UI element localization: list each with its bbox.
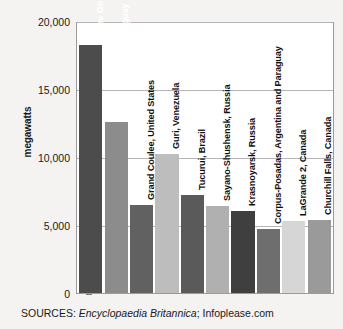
y-tick-label: 5,000	[22, 221, 70, 231]
y-tick-mark	[86, 294, 92, 295]
bar[interactable]	[130, 205, 153, 293]
bar[interactable]	[79, 45, 102, 293]
bar-label: Itaipu, Brazil and Paraguay	[120, 3, 130, 116]
bar[interactable]	[231, 211, 254, 293]
bar[interactable]	[308, 220, 331, 293]
source-italic: Encyclopaedia Britannica	[79, 307, 197, 319]
bar[interactable]	[181, 195, 204, 293]
y-axis-tick-labels: 20,00015,00010,0005,0000	[16, 0, 70, 329]
bar-chart-figure: megawatts 20,00015,00010,0005,0000 Three…	[0, 0, 343, 329]
plot-area: Three Gorges, ChinaItaipu, Brazil and Pa…	[76, 22, 334, 294]
bar-series: Three Gorges, ChinaItaipu, Brazil and Pa…	[77, 23, 333, 293]
bar-label: Grand Coulee, United States	[146, 80, 156, 200]
y-tick-label: 15,000	[22, 85, 70, 95]
y-tick-label: 20,000	[22, 17, 70, 27]
bar-label: Three Gorges, China	[95, 0, 105, 40]
bar[interactable]	[155, 154, 178, 293]
bar[interactable]	[206, 206, 229, 293]
bar[interactable]	[105, 122, 128, 293]
y-tick-label: 0	[22, 289, 70, 299]
bar[interactable]	[257, 229, 280, 293]
bar[interactable]	[282, 221, 305, 293]
source-note: SOURCES: Encyclopaedia Britannica; Infop…	[21, 307, 274, 319]
bar-label: LaGrande 2, Canada	[298, 130, 308, 216]
bar-label: Corpus-Posadas, Argentina and Paraguay	[273, 46, 283, 224]
source-prefix: SOURCES:	[21, 307, 79, 319]
source-suffix: ; Infoplease.com	[197, 307, 274, 319]
bar-label: Tucurui, Brazil	[197, 129, 207, 190]
bar-label: Sayano-Shushensk, Russia	[222, 85, 232, 201]
y-tick-label: 10,000	[22, 153, 70, 163]
bar-label: Guri, Venezuela	[171, 83, 181, 149]
bar-label: Churchill Falls, Canada	[323, 116, 333, 214]
bar-label: Krasnoyarsk, Russia	[247, 118, 257, 206]
